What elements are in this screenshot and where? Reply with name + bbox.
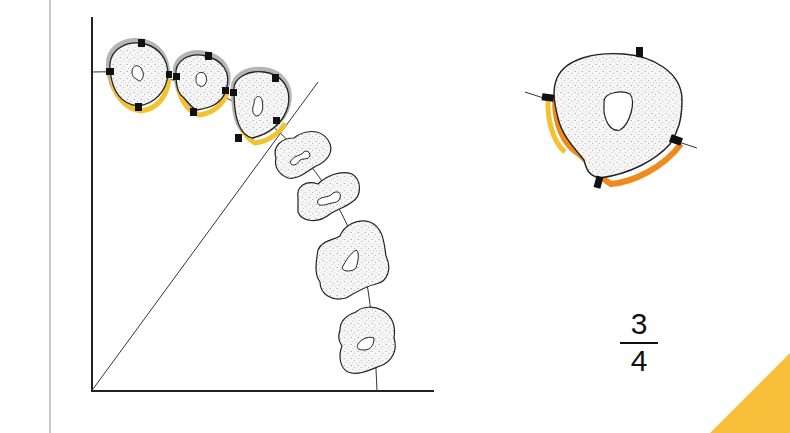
dental-arch-diagram <box>0 0 790 433</box>
tooth-section-3 <box>230 70 289 143</box>
tooth-section-2 <box>173 52 229 116</box>
tooth-section-7 <box>339 307 396 373</box>
fraction-numerator: 3 <box>614 310 664 338</box>
enlarged-tooth-detail <box>525 47 697 189</box>
fraction-denominator: 4 <box>614 347 664 375</box>
corner-accent-triangle <box>710 353 790 433</box>
tooth-section-1 <box>106 39 172 111</box>
tooth-section-4 <box>275 132 331 179</box>
tooth-section-5 <box>298 173 360 221</box>
tooth-section-6 <box>316 221 389 299</box>
fraction-label: 3 4 <box>614 310 664 375</box>
